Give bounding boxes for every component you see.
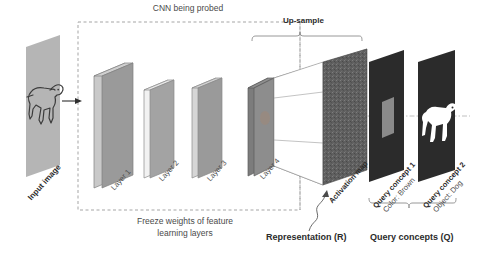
query-concept-1-patch — [382, 97, 394, 138]
upsample-label: Up-sample — [283, 16, 324, 26]
freeze-caption-line-1: Freeze weights of feature — [110, 216, 260, 227]
freeze-caption-line-2: learning layers — [110, 228, 260, 239]
upsample-intermediate-plane — [274, 62, 323, 185]
upsample-brace — [252, 32, 362, 41]
cnn-title-label: CNN being probed — [108, 3, 268, 14]
query-concepts-label: Query concepts (Q) — [370, 232, 454, 243]
representation-pointer-curve — [309, 196, 325, 231]
diagram-canvas: CNN being probed Up-sample Input image L… — [0, 0, 491, 254]
input-image-plane — [26, 35, 60, 177]
representation-label: Representation (R) — [266, 232, 347, 243]
